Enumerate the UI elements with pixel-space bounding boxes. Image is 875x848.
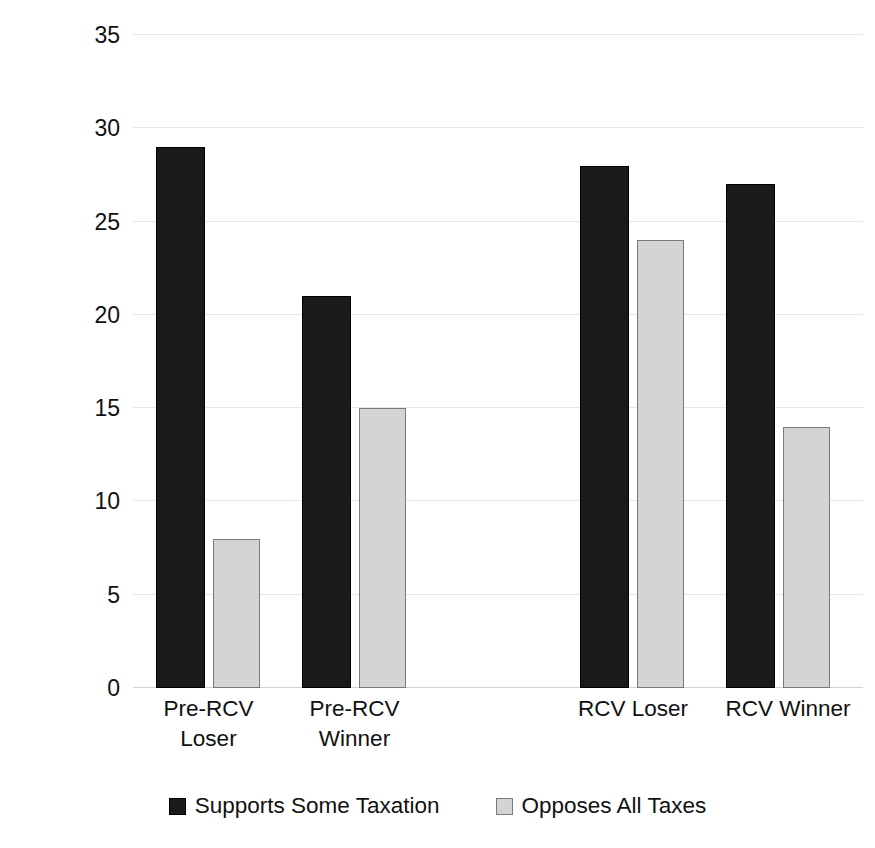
bar[interactable] <box>637 240 684 688</box>
bar[interactable] <box>213 539 260 688</box>
legend-item[interactable]: Supports Some Taxation <box>169 795 440 818</box>
x-axis-tick-label-line: Winner <box>287 724 422 754</box>
x-axis-tick-label-line: RCV Winner <box>703 694 873 724</box>
y-axis-tick-label: 0 <box>58 677 120 700</box>
chart-legend: Supports Some TaxationOpposes All Taxes <box>0 795 875 818</box>
legend-label: Supports Some Taxation <box>195 795 440 818</box>
bar[interactable] <box>359 408 406 688</box>
y-axis-tick-label: 20 <box>58 303 120 326</box>
x-axis-tick-label-line: Loser <box>141 724 276 754</box>
bar-chart: Numberof Candidates 35302520151050 Pre-R… <box>0 0 875 848</box>
x-axis-tick-label: Pre-RCVWinner <box>287 694 422 753</box>
y-axis-title: Numberof Candidates <box>0 0 56 848</box>
gridline <box>133 127 863 128</box>
bar[interactable] <box>580 166 629 688</box>
y-axis-tick-label: 5 <box>58 583 120 606</box>
x-axis-tick-labels: Pre-RCVLoserPre-RCVWinnerRCV LoserRCV Wi… <box>133 694 863 780</box>
x-axis-tick-label: Pre-RCVLoser <box>141 694 276 753</box>
y-axis-tick-label: 30 <box>58 117 120 140</box>
bar[interactable] <box>783 427 830 688</box>
gridline <box>133 34 863 35</box>
y-axis-tick-label: 15 <box>58 397 120 420</box>
bar[interactable] <box>156 147 205 688</box>
x-axis-tick-label-line: Pre-RCV <box>141 694 276 724</box>
x-axis-tick-label-line: RCV Loser <box>553 694 713 724</box>
plot-area <box>133 35 863 688</box>
legend-swatch-icon <box>496 798 513 815</box>
y-axis-tick-label: 10 <box>58 490 120 513</box>
legend-label: Opposes All Taxes <box>522 795 707 818</box>
x-axis-tick-label-line: Pre-RCV <box>287 694 422 724</box>
bar[interactable] <box>726 184 775 688</box>
x-axis-tick-label: RCV Loser <box>553 694 713 724</box>
y-axis-tick-label: 35 <box>58 24 120 47</box>
y-axis-tick-label: 25 <box>58 210 120 233</box>
x-axis-tick-label: RCV Winner <box>703 694 873 724</box>
y-axis-tick-labels: 35302520151050 <box>58 0 120 848</box>
legend-item[interactable]: Opposes All Taxes <box>496 795 707 818</box>
legend-swatch-icon <box>169 798 186 815</box>
bar[interactable] <box>302 296 351 688</box>
